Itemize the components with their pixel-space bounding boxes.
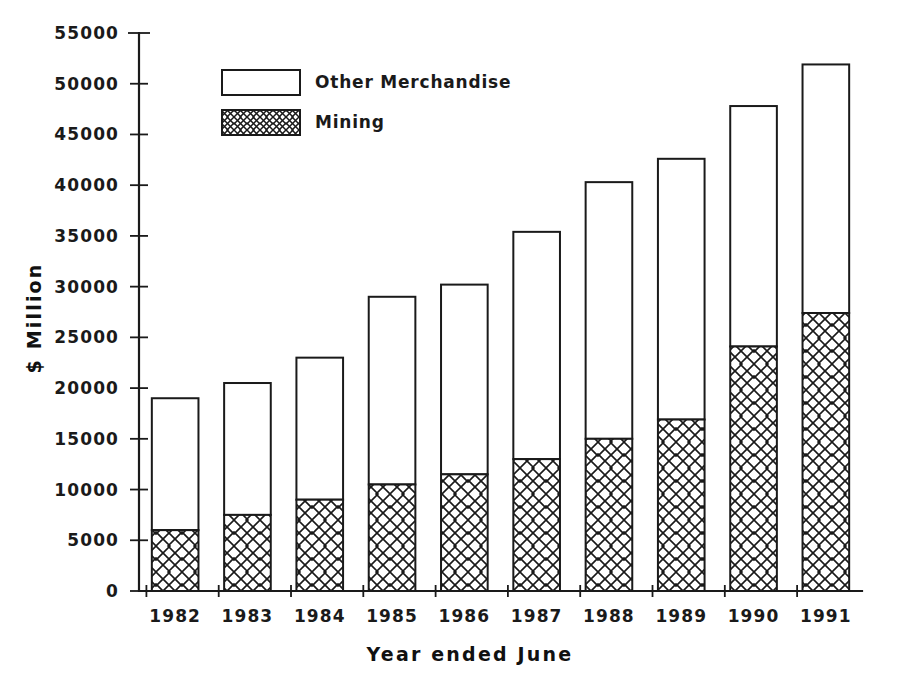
- bar-segment-other-merchandise: [441, 285, 488, 475]
- y-tick-label: 10000: [54, 480, 119, 500]
- y-tick-label: 50000: [54, 74, 119, 94]
- bar-segment-other-merchandise: [224, 383, 271, 515]
- x-tick-label: 1982: [149, 606, 201, 626]
- bar-segment-other-merchandise: [513, 232, 560, 459]
- y-axis-title: $ Million: [23, 262, 45, 373]
- bar-segment-other-merchandise: [658, 159, 705, 420]
- chart-container: 0500010000150002000025000300003500040000…: [0, 0, 900, 679]
- legend-swatch-mining: [222, 110, 300, 135]
- bar-segment-other-merchandise: [296, 358, 343, 500]
- y-tick-label: 55000: [54, 23, 119, 43]
- y-tick-label: 20000: [54, 378, 119, 398]
- x-axis-title: Year ended June: [366, 643, 574, 665]
- x-tick-label: 1991: [800, 606, 852, 626]
- bar-segment-mining: [513, 459, 560, 591]
- y-tick-label: 45000: [54, 124, 119, 144]
- bar-segment-mining: [296, 500, 343, 591]
- x-tick-label: 1984: [294, 606, 346, 626]
- bar-segment-mining: [586, 439, 633, 591]
- x-tick-label: 1987: [511, 606, 563, 626]
- stacked-bar-chart: 0500010000150002000025000300003500040000…: [0, 0, 900, 679]
- y-tick-label: 5000: [67, 530, 119, 550]
- bar-segment-mining: [658, 420, 705, 591]
- x-tick-label: 1983: [222, 606, 274, 626]
- bar-segment-other-merchandise: [586, 182, 633, 439]
- bar-segment-mining: [369, 484, 416, 591]
- bar-segment-mining: [224, 515, 271, 591]
- legend-label-mining: Mining: [315, 112, 385, 132]
- bar-segment-other-merchandise: [152, 398, 199, 530]
- y-tick-label: 25000: [54, 327, 119, 347]
- bar-segment-other-merchandise: [369, 297, 416, 485]
- y-tick-label: 30000: [54, 277, 119, 297]
- bar-segment-mining: [803, 313, 850, 591]
- x-tick-label: 1986: [438, 606, 490, 626]
- bar-segment-mining: [730, 346, 777, 591]
- bar-segment-mining: [152, 530, 199, 591]
- bar-segment-mining: [441, 474, 488, 591]
- y-tick-label: 40000: [54, 175, 119, 195]
- y-tick-label: 0: [106, 581, 119, 601]
- y-tick-label: 35000: [54, 226, 119, 246]
- x-tick-label: 1990: [728, 606, 780, 626]
- legend-swatch-other-merchandise: [222, 70, 300, 95]
- bar-segment-other-merchandise: [803, 64, 850, 313]
- x-tick-label: 1989: [655, 606, 707, 626]
- y-tick-label: 15000: [54, 429, 119, 449]
- x-tick-label: 1985: [366, 606, 418, 626]
- bar-segment-other-merchandise: [730, 106, 777, 346]
- x-tick-label: 1988: [583, 606, 635, 626]
- legend-label-other-merchandise: Other Merchandise: [315, 72, 511, 92]
